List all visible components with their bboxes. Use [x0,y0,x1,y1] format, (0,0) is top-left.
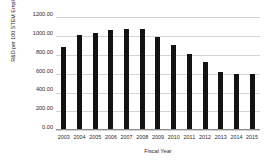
bar-2015[interactable] [250,74,255,130]
x-axis-tick-label: 2013 [213,133,229,142]
bar-slot [72,17,88,130]
bar-2006[interactable] [108,30,113,131]
y-axis-tick-label: 200.00 [14,105,53,111]
bar-series [56,17,260,130]
y-axis-tick-label: 0.00 [14,124,53,130]
bar-2010[interactable] [171,45,176,130]
bar-2009[interactable] [155,37,160,131]
gridline [56,130,260,131]
bar-slot [87,17,103,130]
bar-slot [213,17,229,130]
plot-area [56,17,260,130]
x-axis-tick-label: 2008 [134,133,150,142]
y-axis-tick-label: 1200.00 [14,11,53,17]
bar-slot [182,17,198,130]
x-axis-line [56,129,260,130]
bar-2012[interactable] [203,62,208,130]
x-axis-tick-label: 2009 [150,133,166,142]
x-axis-tick-label: 2007 [119,133,135,142]
x-axis-tick-label: 2014 [229,133,245,142]
x-axis-title: Fiscal Year [56,147,260,155]
bar-2013[interactable] [218,72,223,130]
x-axis-tick-label: 2003 [56,133,72,142]
bar-2008[interactable] [140,29,145,130]
bar-slot [134,17,150,130]
bar-2007[interactable] [124,29,129,130]
x-axis-tick-label: 2010 [166,133,182,142]
x-axis-tick-label: 2011 [182,133,198,142]
x-axis-tick-labels: 2003200420052006200720082009201020112012… [56,133,260,142]
x-axis-tick-label: 2006 [103,133,119,142]
y-axis-tick-labels: 1200.001000.00800.00600.00400.00200.000.… [16,14,55,132]
bar-2004[interactable] [77,35,82,130]
bar-chart: R&D per 100 STEM Employees - DOD 1200.00… [0,0,268,163]
bar-slot [244,17,260,130]
bar-slot [166,17,182,130]
y-axis-tick-label: 600.00 [14,68,53,74]
bar-2005[interactable] [93,33,98,130]
y-axis-tick-label: 400.00 [14,86,53,92]
x-axis-tick-label: 2015 [244,133,260,142]
bar-2014[interactable] [234,74,239,131]
bar-slot [197,17,213,130]
bar-slot [150,17,166,130]
y-axis-tick-label: 1000.00 [14,30,53,36]
x-axis-tick-label: 2004 [72,133,88,142]
x-axis-tick-label: 2005 [87,133,103,142]
bar-2003[interactable] [61,47,66,131]
bar-2011[interactable] [187,54,192,130]
bar-slot [119,17,135,130]
y-axis-tick-label: 800.00 [14,49,53,55]
bar-slot [56,17,72,130]
bar-slot [103,17,119,130]
x-axis-tick-label: 2012 [197,133,213,142]
bar-slot [229,17,245,130]
